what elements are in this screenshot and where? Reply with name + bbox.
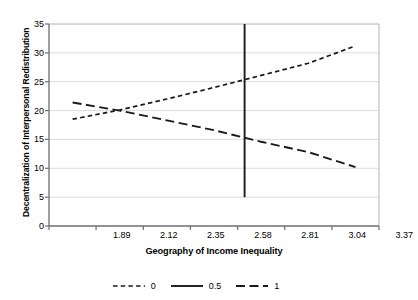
x-tick-label: 2.81 — [287, 231, 334, 240]
legend-item-0point5: 0.5 — [170, 281, 222, 291]
legend-item-1: 1 — [235, 281, 279, 291]
chart-legend: 0 0.5 1 — [0, 276, 391, 296]
gridlines — [49, 53, 379, 197]
legend-item-0: 0 — [112, 281, 156, 291]
x-tick-label: 2.35 — [192, 231, 239, 240]
x-axis-tick-labels: 1.89 2.12 2.35 2.58 2.81 3.04 3.37 — [49, 231, 379, 245]
x-tick-label: 2.12 — [145, 231, 192, 240]
x-tick-label: 2.58 — [239, 231, 286, 240]
x-axis-title: Geography of Income Inequality — [49, 246, 379, 256]
legend-swatch-short-dash-icon — [112, 281, 146, 291]
legend-label: 0.5 — [209, 282, 222, 291]
legend-swatch-solid-icon — [170, 281, 204, 291]
legend-swatch-long-dash-icon — [235, 281, 269, 291]
plot-frame — [49, 24, 379, 226]
x-tick-label: 1.89 — [98, 231, 145, 240]
legend-label: 1 — [274, 282, 279, 291]
series-line-0 — [73, 46, 356, 119]
legend-label: 0 — [151, 282, 156, 291]
x-tick-label: 3.37 — [381, 231, 418, 240]
series-line-1 — [73, 103, 356, 168]
x-tick-label: 3.04 — [334, 231, 381, 240]
